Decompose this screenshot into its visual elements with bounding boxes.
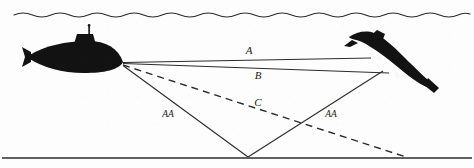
- path-AA-return-label: AA: [324, 109, 337, 119]
- submarine-own-ship: [22, 24, 123, 73]
- acoustic-paths-group: [123, 58, 406, 157]
- path-B-label: B: [255, 69, 262, 81]
- target-dive-plane: [344, 40, 358, 47]
- own-ship-hull: [30, 41, 123, 73]
- target-hull: [349, 32, 434, 89]
- own-ship-mast-tip: [88, 24, 91, 27]
- path-AA-outbound-line: [123, 66, 248, 158]
- path-AA-return-line: [248, 71, 383, 157]
- sonar-path-diagram: a b A B C AA AA: [0, 0, 474, 168]
- own-ship-conning-tower: [74, 34, 96, 45]
- path-C-label: C: [254, 96, 262, 108]
- diagram-canvas: a b A B C AA AA: [0, 0, 474, 168]
- sea-surface-group: [14, 13, 470, 17]
- own-ship-stern-shaft: [28, 54, 36, 60]
- path-AA-outbound-label: AA: [161, 109, 174, 119]
- path-A-label: A: [245, 44, 253, 56]
- submarine-target: a b: [344, 30, 439, 93]
- sea-surface-wave-line: [14, 13, 470, 17]
- target-marker-b-label: b: [395, 70, 400, 80]
- target-marker-a-label: a: [377, 52, 382, 62]
- path-A-line: [123, 58, 371, 63]
- path-labels-group: A B C AA AA: [161, 44, 337, 119]
